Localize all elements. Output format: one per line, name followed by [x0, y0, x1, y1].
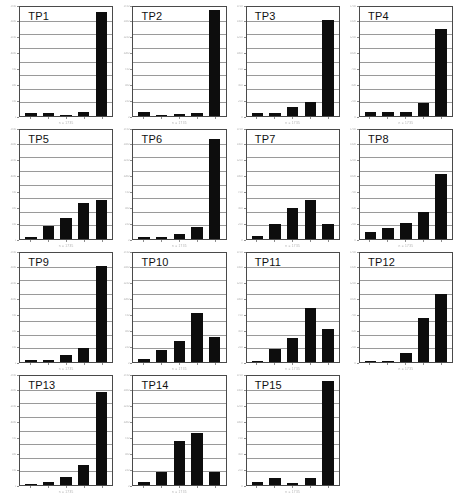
y-axis-tick-label: 1250	[350, 159, 357, 162]
plot-area: TP7	[246, 129, 340, 240]
y-axis-tick: 1500	[2, 266, 19, 270]
x-axis-tick-mark	[405, 363, 406, 365]
y-axis-tick-label: 250	[125, 469, 130, 472]
x-axis: n = 1735	[132, 486, 226, 497]
bar	[174, 234, 185, 239]
bar-series	[360, 7, 452, 116]
y-axis: 17501500125010007505002500	[2, 252, 19, 363]
bar	[156, 472, 167, 485]
y-axis-tick-label: 1750	[10, 5, 17, 8]
x-axis-tick-mark	[48, 363, 49, 365]
x-axis-tick-mark	[274, 486, 275, 488]
bar	[43, 226, 54, 239]
y-axis-tick-label: 500	[351, 207, 356, 210]
bar-series	[133, 7, 225, 116]
panel-title: TP4	[368, 10, 389, 22]
bar-series	[247, 7, 339, 116]
y-axis-tick: 0	[342, 115, 359, 119]
x-axis-tick-mark	[256, 240, 257, 242]
y-axis-tick-label: 250	[238, 100, 243, 103]
y-axis-tick: 250	[115, 222, 132, 226]
y-axis-tick: 500	[115, 452, 132, 456]
y-axis-tick: 0	[229, 484, 246, 488]
x-axis-tick-mark	[66, 486, 67, 488]
x-axis-tick-mark	[387, 363, 388, 365]
x-axis-tick-mark	[215, 486, 216, 488]
y-axis-tick: 0	[342, 361, 359, 365]
x-axis-tick-mark	[30, 240, 31, 242]
y-axis-tick: 1250	[229, 36, 246, 40]
plot-area: TP12	[359, 252, 453, 363]
bar	[322, 381, 333, 485]
panel-tp7: 17501500125010007505002500TP7n = 1735	[229, 129, 340, 251]
y-axis-tick-label: 500	[12, 330, 17, 333]
panel-title: TP5	[28, 133, 49, 145]
x-axis-tick-mark	[292, 363, 293, 365]
bar	[174, 341, 185, 362]
bar-series	[247, 253, 339, 362]
y-axis-tick: 1250	[115, 282, 132, 286]
bar	[365, 112, 376, 116]
bar	[174, 114, 185, 116]
x-axis-tick-mark	[197, 486, 198, 488]
y-axis-tick-label: 0	[354, 239, 356, 242]
x-axis-tick-mark	[48, 486, 49, 488]
y-axis: 17501500125010007505002500	[229, 375, 246, 486]
panel-tp4: 17501500125010007505002500TP4n = 1735	[342, 6, 453, 128]
x-axis-tick-mark	[102, 363, 103, 365]
y-axis-tick-label: 1250	[10, 282, 17, 285]
bar	[435, 174, 446, 239]
y-axis: 17501500125010007505002500	[115, 129, 132, 240]
bar-series	[133, 130, 225, 239]
x-axis-tick-mark	[66, 240, 67, 242]
y-axis-tick: 1000	[115, 175, 132, 179]
bar	[78, 465, 89, 485]
y-axis-tick-label: 750	[125, 191, 130, 194]
y-axis-tick: 1000	[2, 298, 19, 302]
x-axis-label: n = 1735	[19, 367, 113, 371]
bar	[400, 112, 411, 116]
y-axis-tick-label: 500	[351, 84, 356, 87]
y-axis-tick: 1500	[342, 266, 359, 270]
y-axis-tick-label: 250	[12, 346, 17, 349]
y-axis-tick-label: 0	[15, 362, 17, 365]
panel-title: TP8	[368, 133, 389, 145]
x-axis-tick-mark	[387, 117, 388, 119]
panel-title: TP2	[142, 10, 163, 22]
y-axis-tick: 500	[2, 452, 19, 456]
y-axis-tick: 1000	[115, 52, 132, 56]
bar	[96, 12, 107, 116]
y-axis-tick: 500	[115, 206, 132, 210]
x-axis-tick-mark	[310, 240, 311, 242]
y-axis-tick: 250	[115, 468, 132, 472]
bar	[60, 355, 71, 362]
y-axis-tick-label: 1500	[123, 20, 130, 23]
bar	[382, 112, 393, 116]
y-axis-tick-label: 1500	[237, 143, 244, 146]
y-axis: 17501500125010007505002500	[2, 375, 19, 486]
y-axis-tick: 1500	[229, 20, 246, 24]
y-axis-tick-label: 1750	[237, 128, 244, 131]
y-axis-tick: 1250	[2, 36, 19, 40]
y-axis-tick-label: 1500	[350, 20, 357, 23]
bar	[191, 433, 202, 485]
y-axis-tick: 1000	[342, 175, 359, 179]
y-axis-tick: 1250	[229, 405, 246, 409]
y-axis-tick-label: 250	[351, 223, 356, 226]
y-axis-tick-label: 750	[238, 191, 243, 194]
bar	[252, 361, 263, 362]
x-axis-tick-mark	[197, 363, 198, 365]
y-axis-tick-label: 1000	[237, 52, 244, 55]
y-axis-tick: 1750	[115, 250, 132, 254]
x-axis-label: n = 1735	[246, 490, 340, 494]
y-axis-tick-label: 250	[238, 346, 243, 349]
bar	[138, 359, 149, 362]
x-axis-label: n = 1735	[132, 121, 226, 125]
bar	[418, 318, 429, 362]
y-axis-tick-label: 0	[15, 116, 17, 119]
y-axis-tick-label: 0	[15, 485, 17, 488]
y-axis-tick-label: 1000	[350, 52, 357, 55]
small-multiples-grid: 17501500125010007505002500TP1n = 1735175…	[0, 0, 459, 501]
y-axis-tick-label: 1000	[10, 298, 17, 301]
x-axis-tick-mark	[274, 117, 275, 119]
